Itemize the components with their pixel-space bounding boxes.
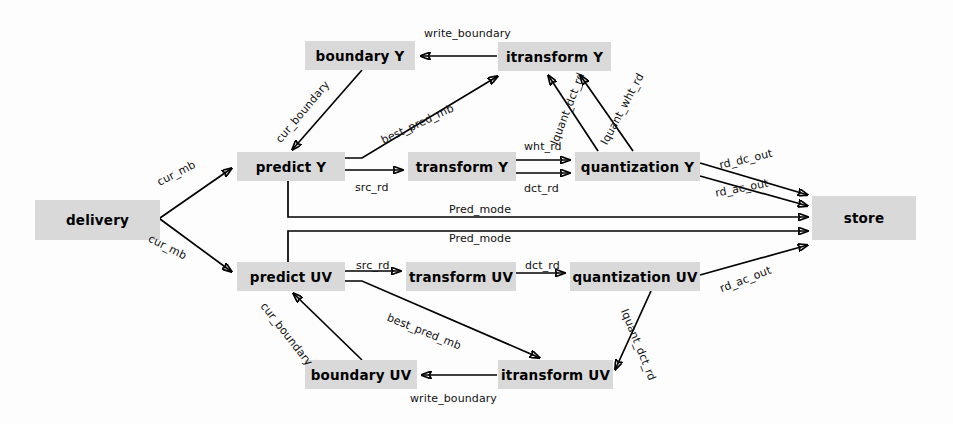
node-itransform-uv-label: itransform UV bbox=[501, 367, 610, 383]
node-quantization-uv[interactable]: quantization UV bbox=[570, 262, 700, 291]
node-store[interactable]: store bbox=[812, 196, 916, 240]
edge-label-write-boundary-uv: write_boundary bbox=[410, 392, 497, 405]
node-predict-y[interactable]: predict Y bbox=[237, 152, 345, 181]
edge-label-write-boundary-y: write_boundary bbox=[424, 27, 511, 40]
edge-label-dct-rd-uv: dct_rd bbox=[525, 259, 560, 272]
node-transform-y-label: transform Y bbox=[416, 159, 508, 175]
edge-label-pred-mode-top: Pred_mode bbox=[449, 203, 511, 216]
edge-pred_mode-uv bbox=[288, 231, 808, 262]
node-itransform-uv[interactable]: itransform UV bbox=[498, 360, 613, 389]
node-transform-y[interactable]: transform Y bbox=[408, 152, 516, 181]
dataflow-diagram: delivery boundary Y itransform Y predict… bbox=[0, 0, 953, 424]
edge-label-src-rd-y: src_rd bbox=[355, 181, 388, 194]
node-transform-uv-label: transform UV bbox=[409, 269, 513, 285]
node-boundary-y[interactable]: boundary Y bbox=[305, 41, 415, 70]
node-quantization-uv-label: quantization UV bbox=[572, 269, 697, 285]
edge-label-src-rd-uv: src_rd bbox=[356, 259, 389, 272]
node-boundary-y-label: boundary Y bbox=[316, 48, 405, 64]
node-predict-uv[interactable]: predict UV bbox=[237, 262, 345, 291]
node-quantization-y-label: quantization Y bbox=[581, 159, 694, 175]
node-delivery[interactable]: delivery bbox=[35, 200, 160, 240]
node-store-label: store bbox=[844, 210, 885, 226]
edge-label-dct-rd-y: dct_rd bbox=[524, 182, 559, 195]
node-itransform-y-label: itransform Y bbox=[506, 49, 603, 65]
node-itransform-y[interactable]: itransform Y bbox=[498, 42, 611, 71]
node-predict-y-label: predict Y bbox=[256, 159, 327, 175]
node-delivery-label: delivery bbox=[66, 212, 129, 228]
node-quantization-y[interactable]: quantization Y bbox=[575, 152, 700, 181]
node-transform-uv[interactable]: transform UV bbox=[406, 262, 516, 291]
node-boundary-uv[interactable]: boundary UV bbox=[305, 360, 417, 389]
node-predict-uv-label: predict UV bbox=[250, 269, 332, 285]
edge-label-pred-mode-bottom: Pred_mode bbox=[449, 232, 511, 245]
node-boundary-uv-label: boundary UV bbox=[311, 367, 412, 383]
